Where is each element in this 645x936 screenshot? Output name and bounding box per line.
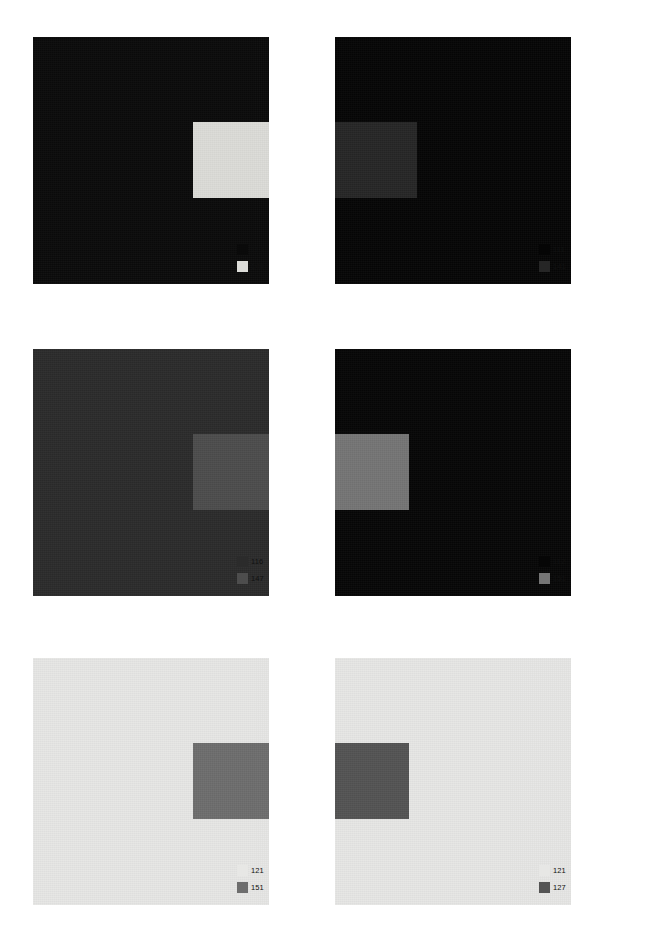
panel-5-canvas <box>33 658 269 905</box>
panel-2: 111 141 <box>335 37 571 284</box>
legend-label-patch: 141 <box>553 263 566 271</box>
legend-row-background: 111 <box>539 242 585 257</box>
legend-swatch-patch <box>539 882 550 893</box>
legend-swatch-background <box>237 865 248 876</box>
legend-label-patch: 147 <box>251 575 264 583</box>
panel-6: 121 127 <box>335 658 571 905</box>
legend-swatch-patch <box>237 573 248 584</box>
legend-label-background: 111 <box>553 246 565 254</box>
panel-3-legend: 116 147 <box>237 554 283 588</box>
panel-5: 121 151 <box>33 658 269 905</box>
panel-5-legend: 121 151 <box>237 863 283 897</box>
panel-3-canvas <box>33 349 269 596</box>
legend-label-patch: 151 <box>251 884 264 892</box>
legend-swatch-background <box>237 556 248 567</box>
panel-3: 116 147 <box>33 349 269 596</box>
panel-4-legend: 112 151 <box>539 554 585 588</box>
panel-2-patch <box>335 122 417 198</box>
legend-row-patch: 149 <box>237 259 283 274</box>
legend-row-background: 121 <box>539 863 585 878</box>
legend-label-background: 113 <box>251 246 263 254</box>
panel-3-patch <box>193 434 269 510</box>
legend-row-background: 113 <box>237 242 283 257</box>
legend-swatch-patch <box>539 261 550 272</box>
legend-swatch-patch <box>539 573 550 584</box>
legend-swatch-patch <box>237 882 248 893</box>
panel-6-patch <box>335 743 409 819</box>
legend-label-patch: 149 <box>251 263 264 271</box>
panel-1-canvas <box>33 37 269 284</box>
legend-label-patch: 151 <box>553 575 566 583</box>
panel-5-patch <box>193 743 269 819</box>
legend-swatch-background <box>539 865 550 876</box>
legend-label-background: 116 <box>251 558 263 566</box>
panel-4-canvas <box>335 349 571 596</box>
legend-label-background: 121 <box>251 867 264 875</box>
panel-2-canvas <box>335 37 571 284</box>
legend-row-patch: 151 <box>237 880 283 895</box>
panel-grid: 113 149 111 141 <box>0 0 645 936</box>
legend-swatch-background <box>539 244 550 255</box>
legend-label-patch: 127 <box>553 884 566 892</box>
legend-swatch-patch <box>237 261 248 272</box>
panel-4: 112 151 <box>335 349 571 596</box>
legend-label-background: 121 <box>553 867 566 875</box>
legend-row-patch: 127 <box>539 880 585 895</box>
legend-row-background: 116 <box>237 554 283 569</box>
panel-2-legend: 111 141 <box>539 242 585 276</box>
legend-row-patch: 141 <box>539 259 585 274</box>
legend-row-patch: 151 <box>539 571 585 586</box>
panel-6-canvas <box>335 658 571 905</box>
panel-1-legend: 113 149 <box>237 242 283 276</box>
panel-1-patch <box>193 122 269 198</box>
legend-swatch-background <box>539 556 550 567</box>
panel-6-legend: 121 127 <box>539 863 585 897</box>
legend-row-background: 121 <box>237 863 283 878</box>
legend-row-patch: 147 <box>237 571 283 586</box>
legend-swatch-background <box>237 244 248 255</box>
legend-label-background: 112 <box>553 558 565 566</box>
panel-1: 113 149 <box>33 37 269 284</box>
panel-4-patch <box>335 434 409 510</box>
legend-row-background: 112 <box>539 554 585 569</box>
